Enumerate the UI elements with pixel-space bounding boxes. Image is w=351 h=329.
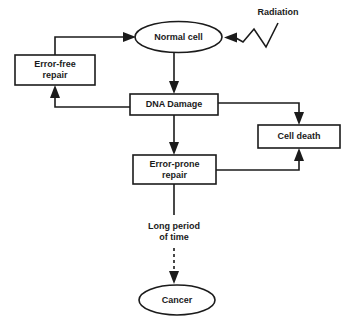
node-dna-damage[interactable]: DNA Damage — [130, 94, 218, 115]
flow-diagram: Normal cell Radiation Error-free repair — [0, 0, 351, 329]
node-error-free-repair[interactable]: Error-free repair — [15, 55, 95, 85]
node-cell-death[interactable]: Cell death — [258, 125, 340, 148]
node-normal-cell[interactable]: Normal cell — [135, 22, 222, 53]
error-free-repair-label-line1: Error-free — [34, 59, 76, 69]
edge-dna-damage-to-error-prone-repair — [169, 115, 179, 155]
arrowhead-into-dna-damage — [169, 81, 179, 94]
edge-error-free-repair-to-normal-cell — [55, 32, 136, 55]
dna-damage-to-cell-death-path — [218, 103, 299, 113]
edge-radiation-to-normal-cell — [224, 23, 278, 47]
error-free-repair-label-line2: repair — [42, 70, 68, 80]
node-cancer[interactable]: Cancer — [139, 285, 215, 315]
cancer-label: Cancer — [162, 295, 193, 305]
radiation-label: Radiation — [257, 7, 298, 17]
cell-death-label: Cell death — [277, 131, 320, 141]
arrowhead-into-normal-cell-left — [123, 32, 136, 42]
edge-dna-damage-to-error-free-repair — [50, 85, 130, 107]
dna-damage-label: DNA Damage — [146, 99, 203, 109]
arrowhead-into-cell-death-bottom — [294, 148, 304, 161]
annotation-radiation: Radiation — [257, 7, 298, 17]
arrowhead-into-cell-death-top — [294, 112, 304, 125]
error-prone-repair-label-line2: repair — [162, 170, 188, 180]
normal-cell-label: Normal cell — [154, 32, 203, 42]
long-period-label-line2: of time — [159, 232, 189, 242]
edge-error-prone-repair-to-cell-death — [216, 148, 304, 170]
radiation-zigzag-icon — [236, 23, 278, 47]
arrowhead-into-normal-cell — [224, 33, 237, 43]
arrowhead-into-cancer — [169, 271, 179, 284]
diagram-canvas: Normal cell Radiation Error-free repair — [0, 0, 351, 329]
error-prone-repair-label-line1: Error-prone — [149, 159, 199, 169]
dna-damage-to-error-free-path — [55, 97, 130, 107]
node-error-prone-repair[interactable]: Error-prone repair — [133, 155, 216, 184]
error-free-to-normal-path — [55, 37, 124, 55]
arrowhead-into-error-free-repair — [50, 85, 60, 98]
edge-error-prone-repair-to-cancer: Long period of time — [148, 184, 200, 284]
arrowhead-into-error-prone-repair — [169, 142, 179, 155]
long-period-label-line1: Long period — [148, 221, 200, 231]
edge-dna-damage-to-cell-death — [218, 103, 304, 125]
error-prone-to-cell-death-path — [216, 161, 299, 170]
edge-normal-cell-to-dna-damage — [169, 53, 179, 94]
